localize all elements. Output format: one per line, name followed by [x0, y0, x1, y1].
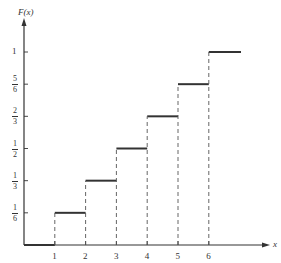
x-axis-arrow-icon [262, 243, 270, 248]
x-tick-label: 3 [114, 252, 119, 261]
numerator: 2 [12, 107, 18, 117]
y-tick-label: 12 [10, 140, 20, 159]
denominator: 3 [13, 182, 17, 191]
x-tick-label: 6 [206, 252, 211, 261]
denominator: 6 [13, 214, 17, 223]
numerator: 1 [12, 140, 18, 150]
y-tick-label: 1 [12, 47, 17, 56]
x-axis-label: x [273, 240, 277, 249]
numerator: 1 [12, 204, 18, 214]
y-axis-label: F(x) [18, 8, 34, 17]
x-tick-label: 5 [176, 252, 181, 261]
denominator: 3 [13, 117, 17, 126]
step-chart [0, 0, 281, 263]
y-tick-label: 16 [10, 204, 20, 223]
denominator: 6 [13, 85, 17, 94]
numerator: 5 [12, 75, 18, 85]
y-tick-label: 56 [10, 75, 20, 94]
y-axis-arrow-icon [22, 18, 27, 26]
y-tick-label: 23 [10, 107, 20, 126]
numerator: 1 [12, 172, 18, 182]
denominator: 2 [13, 150, 17, 159]
x-tick-label: 4 [145, 252, 150, 261]
x-tick-label: 1 [52, 252, 57, 261]
y-tick-label: 13 [10, 172, 20, 191]
x-tick-label: 2 [83, 252, 88, 261]
